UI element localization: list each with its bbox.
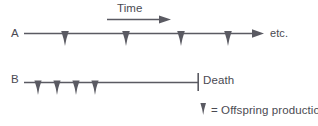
timeline-b-label: B — [11, 74, 19, 86]
time-axis-label: Time — [117, 3, 143, 15]
timeline-b — [24, 73, 198, 95]
offspring-marker — [177, 31, 185, 46]
time-axis-arrow — [107, 16, 171, 24]
legend-label: = Offspring production — [211, 105, 318, 117]
down-arrow-icon — [200, 103, 206, 115]
timeline-a-continuation-label: etc. — [270, 28, 288, 39]
timeline-a-label: A — [11, 28, 19, 40]
offspring-marker — [224, 31, 232, 46]
offspring-marker — [72, 81, 79, 96]
offspring-marker — [91, 81, 98, 96]
life-history-diagram: Time A etc. B Death = Offspring producti… — [0, 0, 318, 126]
death-label: Death — [203, 75, 234, 87]
offspring-marker — [34, 81, 41, 96]
timeline-a — [24, 29, 264, 46]
offspring-marker — [122, 31, 130, 46]
time-arrow-head — [159, 16, 171, 24]
offspring-marker — [53, 81, 60, 96]
offspring-marker — [61, 31, 69, 46]
timeline-a-arrow-head — [252, 29, 264, 37]
